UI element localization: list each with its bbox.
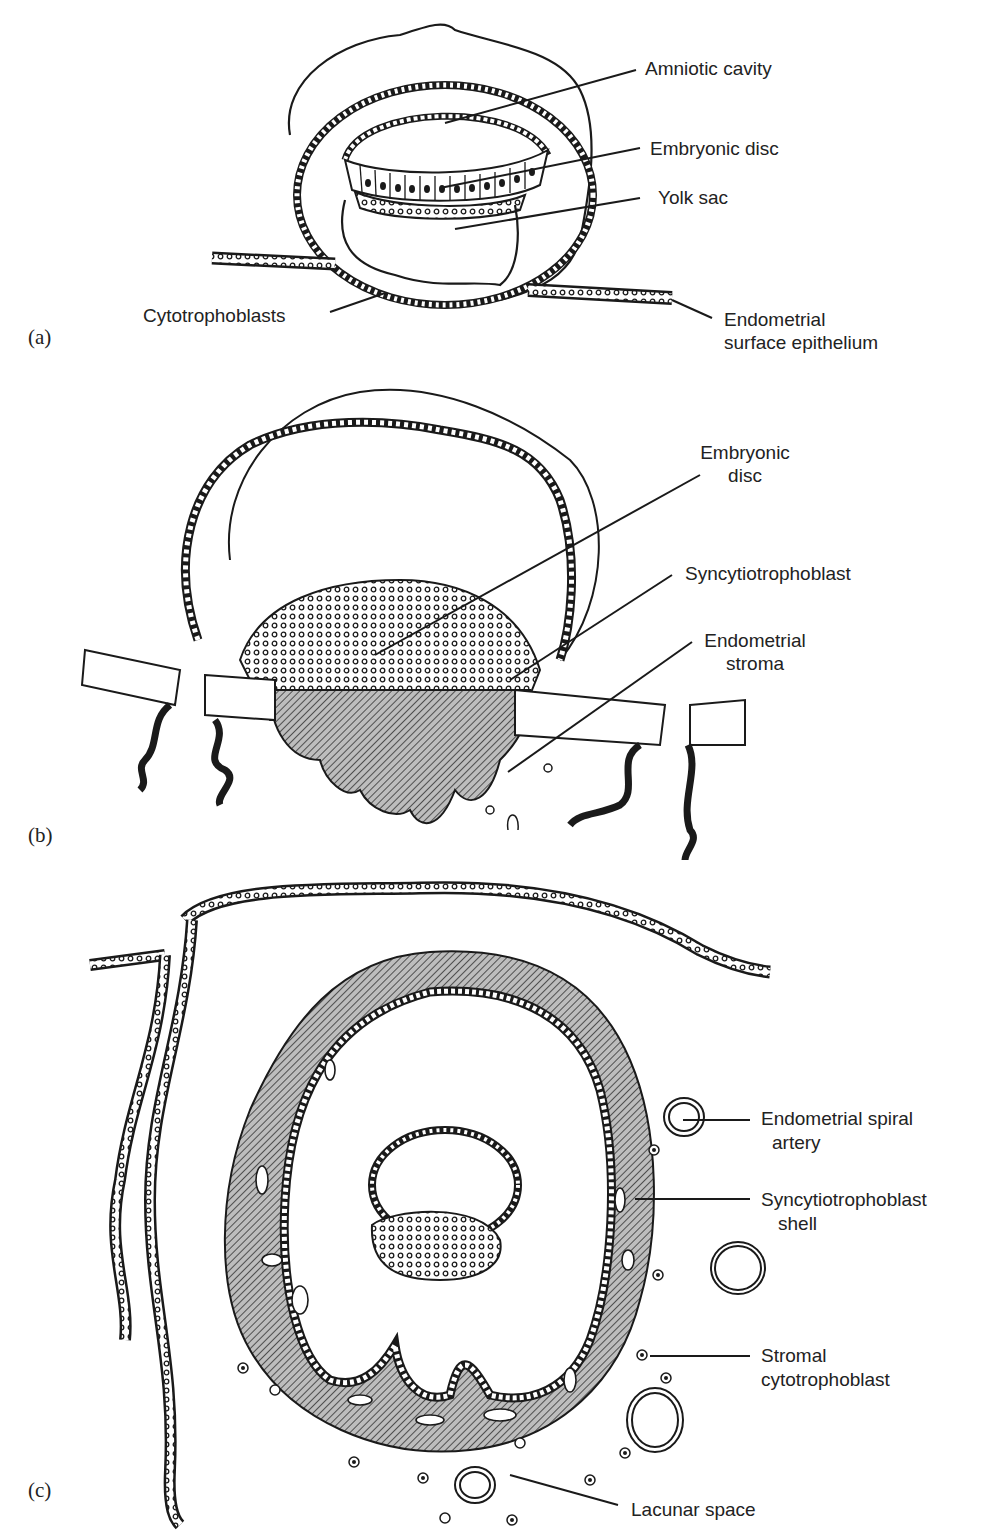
label-syncytiotrophoblast-shell-line2: shell bbox=[778, 1213, 817, 1235]
label-lacunar-space: Lacunar space bbox=[631, 1499, 756, 1521]
label-endometrial-surface-epithelium-line1: Endometrial bbox=[724, 309, 825, 331]
label-endometrial-stroma-line1: Endometrial bbox=[690, 630, 820, 652]
panel-a-drawing bbox=[212, 25, 712, 318]
label-stromal-cytotrophoblast-line1: Stromal bbox=[761, 1345, 826, 1367]
label-amniotic-cavity: Amniotic cavity bbox=[645, 58, 772, 80]
label-endometrial-spiral-artery-line1: Endometrial spiral bbox=[761, 1108, 913, 1130]
label-endometrial-stroma-line2: stroma bbox=[690, 653, 820, 675]
label-stromal-cytotrophoblast-line2: cytotrophoblast bbox=[761, 1369, 890, 1391]
label-yolk-sac: Yolk sac bbox=[658, 187, 728, 209]
label-embryonic-disc-a: Embryonic disc bbox=[650, 138, 779, 160]
label-syncytiotrophoblast: Syncytiotrophoblast bbox=[685, 563, 851, 585]
panel-c-drawing bbox=[90, 888, 770, 1525]
label-embryonic-disc-b-line2: disc bbox=[680, 465, 810, 487]
label-endometrial-spiral-artery-line2: artery bbox=[772, 1132, 821, 1154]
panel-label-a: (a) bbox=[28, 325, 51, 350]
label-endometrial-surface-epithelium-line2: surface epithelium bbox=[724, 332, 878, 354]
label-cytotrophoblasts: Cytotrophoblasts bbox=[143, 305, 286, 327]
label-syncytiotrophoblast-shell-line1: Syncytiotrophoblast bbox=[761, 1189, 927, 1211]
panel-label-b: (b) bbox=[28, 823, 53, 848]
diagram-canvas bbox=[0, 0, 998, 1532]
panel-label-c: (c) bbox=[28, 1478, 51, 1503]
label-embryonic-disc-b-line1: Embryonic bbox=[680, 442, 810, 464]
panel-b-drawing bbox=[82, 390, 745, 860]
